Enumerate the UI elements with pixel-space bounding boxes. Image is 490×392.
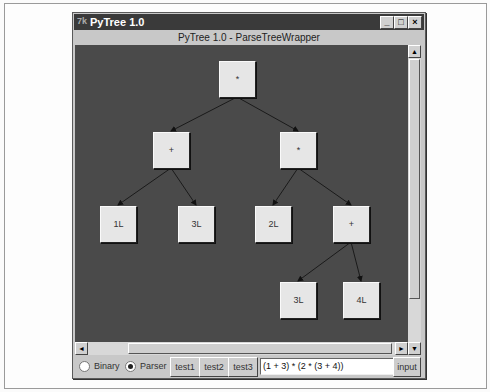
radio-binary-label: Binary <box>94 361 120 371</box>
test2-button[interactable]: test2 <box>199 357 229 377</box>
pytree-window: 7k PyTree 1.0 _ □ × PyTree 1.0 - ParseTr… <box>72 12 426 379</box>
scroll-left-arrow-icon[interactable]: ◄ <box>75 342 88 355</box>
tree-node-leaf[interactable]: 1L <box>100 206 137 243</box>
canvas-title: PyTree 1.0 - ParseTreeWrapper <box>73 31 425 45</box>
tree-node-root[interactable]: * <box>219 61 256 98</box>
maximize-button[interactable]: □ <box>394 16 408 29</box>
tree-node[interactable]: + <box>153 132 190 169</box>
title-bar[interactable]: 7k PyTree 1.0 _ □ × <box>74 14 424 30</box>
scroll-down-arrow-icon[interactable]: ▼ <box>408 342 421 355</box>
radio-parser-label: Parser <box>140 361 167 371</box>
input-button[interactable]: input <box>393 357 421 377</box>
close-button[interactable]: × <box>408 16 422 29</box>
tree-node-leaf[interactable]: 2L <box>255 206 292 243</box>
test3-button[interactable]: test3 <box>228 357 258 377</box>
radio-off-icon <box>79 361 90 372</box>
vertical-scrollbar[interactable]: ▲ ▼ <box>408 45 421 355</box>
test1-button[interactable]: test1 <box>170 357 200 377</box>
radio-parser[interactable]: Parser <box>125 360 167 372</box>
control-bar: Binary Parser test1 test2 test3 (1 + 3) … <box>75 356 421 376</box>
tree-node[interactable]: * <box>280 132 317 169</box>
tk-feather-icon: 7k <box>77 16 88 27</box>
scroll-up-arrow-icon[interactable]: ▲ <box>408 45 421 58</box>
tree-node-leaf[interactable]: 3L <box>178 206 215 243</box>
horizontal-scroll-thumb[interactable] <box>128 343 392 354</box>
minimize-button[interactable]: _ <box>380 16 394 29</box>
tree-canvas[interactable]: * + * 1L 3L 2L + 3L 4L <box>75 45 408 342</box>
tree-node-leaf[interactable]: 4L <box>343 282 380 319</box>
vertical-scroll-thumb[interactable] <box>409 59 420 299</box>
expression-input[interactable]: (1 + 3) * (2 * (3 + 4)) <box>260 358 394 375</box>
radio-on-icon <box>125 361 136 372</box>
radio-binary[interactable]: Binary <box>79 360 120 372</box>
tree-node[interactable]: + <box>333 206 370 243</box>
tree-node-leaf[interactable]: 3L <box>280 282 317 319</box>
window-title: PyTree 1.0 <box>90 14 144 30</box>
scroll-right-arrow-icon[interactable]: ► <box>395 342 408 355</box>
horizontal-scrollbar[interactable]: ◄ ► <box>75 342 408 355</box>
